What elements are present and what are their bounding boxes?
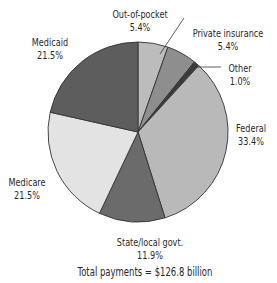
label-state-local: State/local govt. 11.9% <box>105 236 195 262</box>
label-federal: Federal 33.4% <box>231 122 272 148</box>
label-federal-pct: 33.4% <box>231 135 272 148</box>
label-medicare-name: Medicare <box>7 176 48 189</box>
label-medicaid-pct: 21.5% <box>27 49 73 62</box>
label-medicaid-name: Medicaid <box>27 36 73 49</box>
chart-caption: Total payments = $126.8 billion <box>67 266 223 279</box>
label-medicare: Medicare 21.5% <box>7 176 48 202</box>
label-other-pct: 1.0% <box>224 75 257 88</box>
label-other-name: Other <box>224 62 257 75</box>
label-private-insurance: Private insurance 5.4% <box>187 27 269 53</box>
pie-chart: Out-of-pocket 5.4% Private insurance 5.4… <box>0 0 277 283</box>
label-state-local-name: State/local govt. <box>105 236 195 249</box>
label-medicare-pct: 21.5% <box>7 189 48 202</box>
pie-slices <box>48 42 228 222</box>
label-private-insurance-pct: 5.4% <box>187 40 269 53</box>
label-federal-name: Federal <box>231 122 272 135</box>
label-medicaid: Medicaid 21.5% <box>27 36 73 62</box>
label-out-of-pocket-name: Out-of-pocket <box>107 8 173 21</box>
label-private-insurance-name: Private insurance <box>187 27 269 40</box>
label-out-of-pocket-pct: 5.4% <box>107 21 173 34</box>
label-state-local-pct: 11.9% <box>105 249 195 262</box>
label-out-of-pocket: Out-of-pocket 5.4% <box>107 8 173 34</box>
label-other: Other 1.0% <box>224 62 257 88</box>
